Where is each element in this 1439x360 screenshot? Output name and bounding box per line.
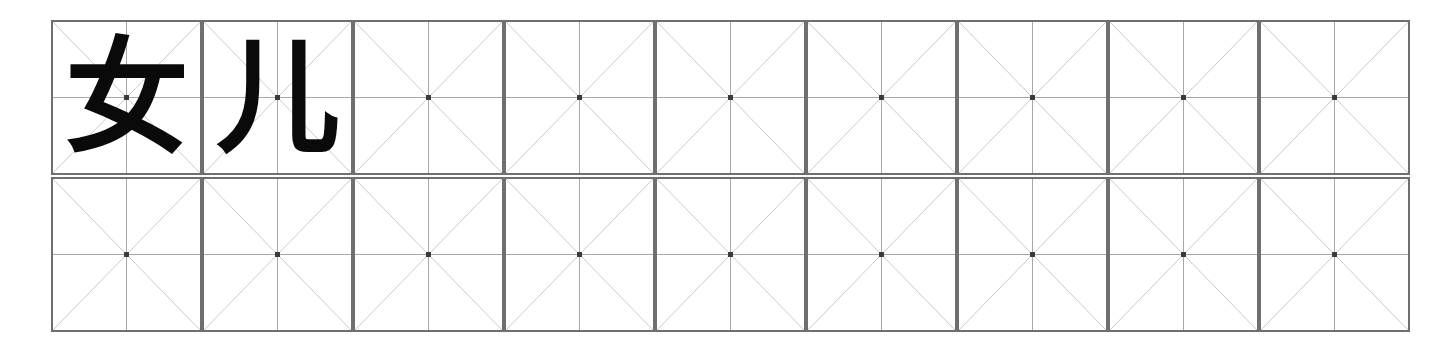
- character-cell[interactable]: 女: [51, 20, 202, 175]
- practice-cell[interactable]: [353, 20, 504, 175]
- practice-cell[interactable]: [202, 177, 353, 332]
- practice-cell[interactable]: [957, 20, 1108, 175]
- character-nu: 女: [51, 20, 202, 175]
- blank-practice-cell: [202, 177, 353, 332]
- practice-cell[interactable]: [1108, 20, 1259, 175]
- blank-practice-cell: [957, 177, 1108, 332]
- practice-cell[interactable]: [504, 177, 655, 332]
- blank-practice-cell: [353, 20, 504, 175]
- practice-cell[interactable]: [1108, 177, 1259, 332]
- character-cell[interactable]: 儿: [202, 20, 353, 175]
- blank-practice-cell: [806, 177, 957, 332]
- blank-practice-cell: [1108, 177, 1259, 332]
- blank-practice-cell: [806, 20, 957, 175]
- blank-practice-cell: [504, 177, 655, 332]
- blank-practice-cell: [1259, 177, 1410, 332]
- practice-cell[interactable]: [504, 20, 655, 175]
- practice-cell[interactable]: [51, 177, 202, 332]
- blank-practice-cell: [353, 177, 504, 332]
- practice-cell[interactable]: [806, 20, 957, 175]
- blank-practice-cell: [51, 177, 202, 332]
- blank-practice-cell: [504, 20, 655, 175]
- practice-cell[interactable]: [957, 177, 1108, 332]
- practice-cell[interactable]: [353, 177, 504, 332]
- practice-sheet-page: 女儿: [0, 0, 1439, 360]
- blank-practice-cell: [1108, 20, 1259, 175]
- character-er: 儿: [202, 20, 353, 175]
- practice-cell[interactable]: [655, 177, 806, 332]
- blank-practice-cell: [957, 20, 1108, 175]
- practice-cell[interactable]: [1259, 177, 1410, 332]
- character-grid: 女儿: [51, 20, 1410, 332]
- blank-practice-cell: [655, 20, 806, 175]
- blank-practice-cell: [655, 177, 806, 332]
- practice-cell[interactable]: [655, 20, 806, 175]
- practice-cell[interactable]: [1259, 20, 1410, 175]
- practice-cell[interactable]: [806, 177, 957, 332]
- blank-practice-cell: [1259, 20, 1410, 175]
